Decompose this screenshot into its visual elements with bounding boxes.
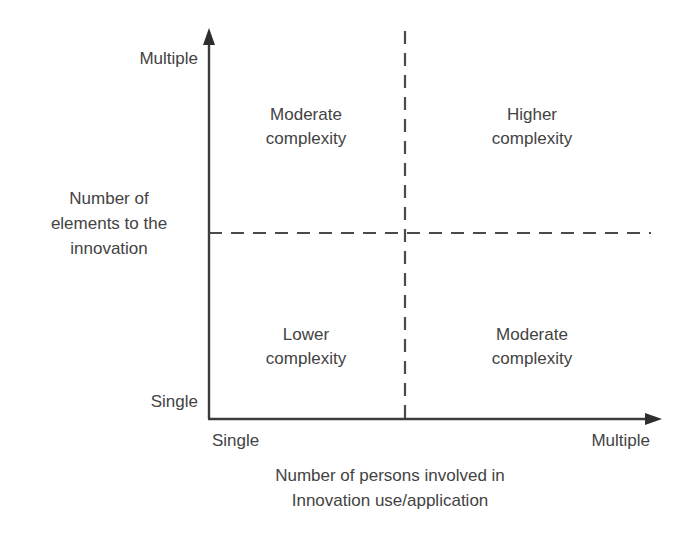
quadrant-top-right-line-1: Higher (432, 103, 632, 127)
quadrant-bottom-left-line-2: complexity (206, 347, 406, 371)
y-axis-title-line-1: Number of (20, 186, 198, 211)
quadrant-bottom-left-line-1: Lower (206, 323, 406, 347)
y-axis-high-label: Multiple (118, 48, 198, 70)
x-axis-title: Number of persons involved in Innovation… (180, 463, 600, 513)
y-axis-title: Number of elements to the innovation (20, 186, 198, 261)
quadrant-bottom-right-line-1: Moderate (432, 323, 632, 347)
x-axis-arrowhead (645, 413, 662, 425)
y-axis-title-line-3: innovation (20, 236, 198, 261)
quadrant-bottom-right: Moderate complexity (432, 323, 632, 371)
y-axis-low-label: Single (118, 391, 198, 413)
y-axis-arrowhead (203, 28, 215, 45)
quadrant-top-left: Moderate complexity (206, 103, 406, 151)
quadrant-bottom-right-line-2: complexity (432, 347, 632, 371)
x-axis-low-label: Single (212, 430, 322, 452)
quadrant-top-left-line-1: Moderate (206, 103, 406, 127)
x-axis-high-label: Multiple (540, 430, 650, 452)
y-axis-title-line-2: elements to the (20, 211, 198, 236)
quadrant-top-right: Higher complexity (432, 103, 632, 151)
quadrant-top-left-line-2: complexity (206, 127, 406, 151)
quadrant-bottom-left: Lower complexity (206, 323, 406, 371)
complexity-matrix-diagram: Multiple Single Number of elements to th… (0, 0, 688, 546)
x-axis-title-line-1: Number of persons involved in (180, 463, 600, 488)
x-axis-title-line-2: Innovation use/application (180, 488, 600, 513)
quadrant-top-right-line-2: complexity (432, 127, 632, 151)
